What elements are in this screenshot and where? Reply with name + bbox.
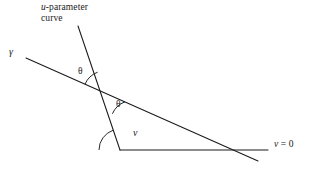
geometry-figure: u-parameter curve γ θ θ v v = 0 xyxy=(0,0,314,175)
figure-canvas xyxy=(0,0,314,175)
v-zero-equation-rest: = 0 xyxy=(278,139,293,149)
v-equals-zero-label: v = 0 xyxy=(274,139,294,150)
u-parameter-curve-line xyxy=(78,26,120,150)
v-angle-arc xyxy=(99,130,113,150)
u-parameter-curve-label: u-parameter curve xyxy=(41,2,88,24)
theta-lower-label: θ xyxy=(116,99,121,110)
gamma-label: γ xyxy=(9,46,13,58)
gamma-curve-line xyxy=(26,58,258,161)
u-parameter-curve-word: curve xyxy=(41,13,88,24)
v-angle-label: v xyxy=(133,127,138,139)
u-parameter-rest: -parameter xyxy=(46,2,88,12)
theta-upper-label: θ xyxy=(78,66,83,77)
